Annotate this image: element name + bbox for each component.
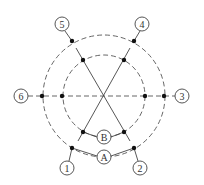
terminal-1: 1	[60, 161, 74, 175]
terminal-5-label: 5	[60, 19, 65, 30]
terminal-6: 6	[14, 89, 28, 103]
terminal-3-label: 3	[180, 91, 185, 102]
terminal-2-label: 2	[138, 163, 143, 174]
terminal-2: 2	[133, 161, 147, 175]
terminal-5: 5	[55, 17, 69, 31]
terminal-4-label: 4	[140, 19, 145, 30]
terminal-3: 3	[175, 89, 189, 103]
lead-a-right	[111, 148, 134, 156]
terminal-6-label: 6	[19, 91, 24, 102]
ring-b-label: B	[101, 132, 108, 143]
lead-a-left	[72, 148, 97, 156]
terminal-1-label: 1	[65, 163, 70, 174]
ring-a-label: A	[100, 152, 108, 163]
lead-b-left	[83, 132, 97, 137]
winding-diagram: 5 4 6 3 1 2 B A	[0, 0, 204, 185]
ring-label-a: A	[97, 150, 111, 164]
terminal-4: 4	[135, 17, 149, 31]
ring-label-b: B	[97, 130, 111, 144]
